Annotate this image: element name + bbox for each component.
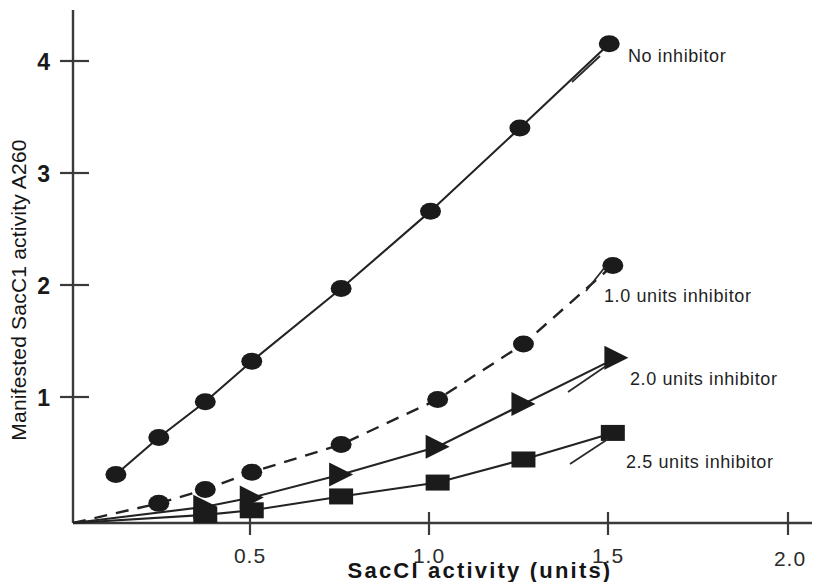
data-point-circle xyxy=(427,391,448,408)
series-layer xyxy=(73,35,628,523)
y-tick-label-3: 3 xyxy=(37,161,50,187)
y-tick-labels: 1 2 3 4 xyxy=(37,49,50,411)
data-point-circle xyxy=(241,464,262,481)
data-point-circle xyxy=(602,257,623,274)
data-point-square xyxy=(511,451,535,467)
data-point-triangle xyxy=(426,435,450,459)
series-circle-1 xyxy=(73,257,623,523)
leader-line-2-5-units xyxy=(570,439,608,464)
y-tick-label-2: 2 xyxy=(37,273,50,299)
series-circle-0 xyxy=(105,35,619,483)
data-point-circle xyxy=(241,353,262,370)
data-point-circle xyxy=(195,393,216,410)
y-tick-label-1: 1 xyxy=(37,385,50,411)
data-point-square xyxy=(240,502,264,518)
x-tick-label-2-0: 2.0 xyxy=(774,547,806,570)
data-point-circle xyxy=(195,481,216,498)
data-point-triangle xyxy=(329,462,353,486)
data-point-circle xyxy=(513,335,534,352)
y-axis-title: Manifested SacC1 activity A260 xyxy=(7,139,30,440)
data-point-triangle xyxy=(511,392,535,416)
annotation-2-5-units: 2.5 units inhibitor xyxy=(626,452,773,472)
data-point-circle xyxy=(331,280,352,297)
series-line xyxy=(116,44,609,475)
data-point-square xyxy=(601,425,625,441)
chart-canvas: 1 2 3 4 0.5 1.0 1.5 2.0 SacCI activity (… xyxy=(0,0,816,582)
series-annotations: No inhibitor 1.0 units inhibitor 2.0 uni… xyxy=(604,46,777,472)
leader-line-1-0-units xyxy=(586,267,605,291)
data-point-square xyxy=(329,488,353,504)
data-point-circle xyxy=(331,436,352,453)
data-point-triangle xyxy=(604,346,628,370)
data-point-circle xyxy=(599,35,620,52)
annotation-2-0-units: 2.0 units inhibitor xyxy=(630,369,777,389)
leader-line-no-inhibitor xyxy=(572,56,600,82)
x-tick-label-0-5: 0.5 xyxy=(234,544,266,567)
data-point-square xyxy=(193,507,217,523)
leader-lines xyxy=(568,56,608,464)
data-point-circle xyxy=(420,203,441,220)
annotation-1-0-units: 1.0 units inhibitor xyxy=(604,286,751,306)
data-point-square xyxy=(426,475,450,491)
y-tick-label-4: 4 xyxy=(37,49,50,75)
data-point-circle xyxy=(509,119,530,136)
chart-page: 1 2 3 4 0.5 1.0 1.5 2.0 SacCI activity (… xyxy=(0,0,816,582)
data-point-circle xyxy=(148,429,169,446)
data-point-circle xyxy=(105,466,126,483)
annotation-no-inhibitor: No inhibitor xyxy=(628,46,726,66)
x-axis-title: SacCI activity (units) xyxy=(348,558,613,582)
series-line xyxy=(73,265,613,523)
data-point-circle xyxy=(148,495,169,512)
y-tick-marks xyxy=(60,61,89,397)
